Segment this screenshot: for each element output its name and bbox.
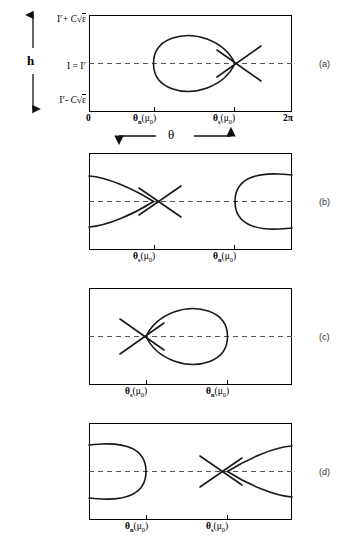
panel-d-curves bbox=[89, 423, 292, 520]
panel-d-xlabel-theta-s: θs(μ0) bbox=[206, 522, 228, 533]
panel-b-xlabel-theta-s: θs(μ0) bbox=[133, 252, 155, 263]
panel-c-letter: (c) bbox=[319, 333, 330, 342]
panel-d-tick-left bbox=[146, 515, 147, 520]
panel-a-xlabel-0: 0 bbox=[86, 114, 91, 124]
y-label-mid: I = Ir bbox=[44, 60, 86, 72]
panel-d-tick-right bbox=[227, 515, 228, 520]
panel-c-curves bbox=[89, 288, 292, 385]
panel-a-xlabel-theta-n: θn(μ0) bbox=[133, 114, 156, 125]
figure-panel-set: h Ir+ C√ε I = Ir Ir- C√ε 0 θn(μ0) θs(μ0)… bbox=[0, 0, 349, 546]
y-label-bottom: Ir- C√ε bbox=[44, 94, 86, 106]
panel-b-tick-left bbox=[154, 245, 155, 250]
panel-a-curves bbox=[89, 15, 292, 112]
panel-a-xlabel-theta-s: θs(μ0) bbox=[213, 114, 235, 125]
panel-c-xlabel-theta-n: θn(μ0) bbox=[206, 387, 229, 398]
panel-c-tick-right bbox=[227, 380, 228, 385]
panel-a-tick-left bbox=[154, 107, 155, 112]
panel-c-tick-left bbox=[146, 380, 147, 385]
panel-b-tick-right bbox=[234, 245, 235, 250]
panel-b-xlabel-theta-n: θn(μ0) bbox=[213, 252, 236, 263]
y-label-top: Ir+ C√ε bbox=[44, 13, 86, 25]
panel-d-xlabel-theta-n: θn(μ0) bbox=[125, 522, 148, 533]
panel-a-letter: (a) bbox=[319, 60, 330, 69]
panel-b-letter: (b) bbox=[319, 198, 330, 207]
theta-axis-arrow bbox=[110, 128, 240, 144]
panel-d-letter: (d) bbox=[319, 468, 330, 477]
panel-b-curves bbox=[89, 153, 292, 250]
panel-c-xlabel-theta-s: θs(μ0) bbox=[125, 387, 147, 398]
theta-axis-label: θ bbox=[168, 128, 174, 141]
h-axis-label: h bbox=[27, 54, 34, 67]
panel-a-xlabel-2pi: 2π bbox=[283, 114, 293, 124]
panel-a-tick-right bbox=[234, 107, 235, 112]
